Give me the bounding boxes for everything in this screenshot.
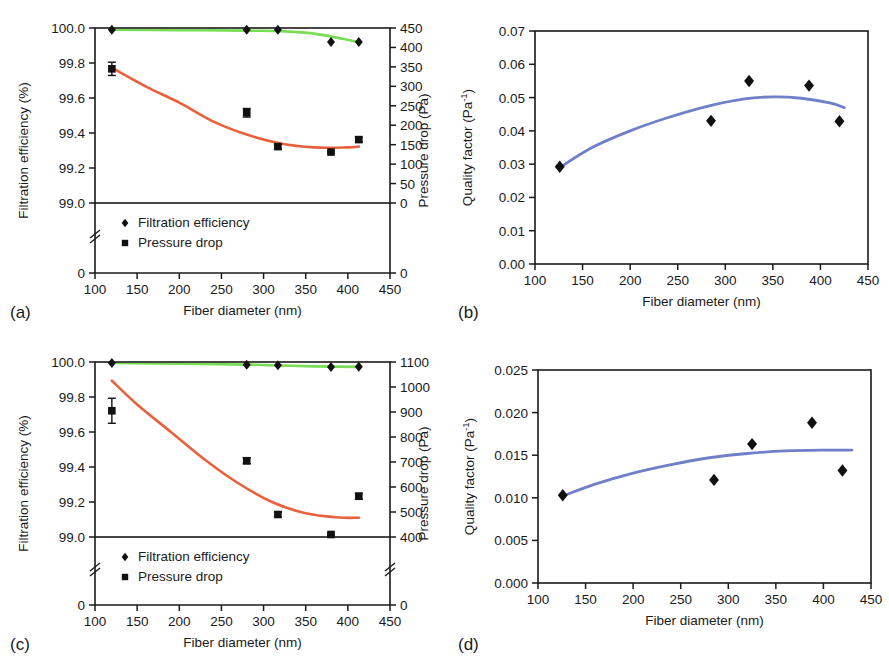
svg-text:450: 450	[379, 614, 402, 629]
svg-text:99.4: 99.4	[59, 460, 86, 475]
data-marker-square	[243, 457, 251, 465]
svg-text:100: 100	[524, 273, 547, 288]
svg-text:150: 150	[571, 273, 594, 288]
svg-text:450: 450	[400, 21, 423, 36]
y2-axis-title: Pressure drop (Pa)	[416, 93, 431, 207]
x-axis: 100150200250300350400450	[527, 583, 883, 607]
legend: Filtration efficiencyPressure drop	[122, 549, 250, 584]
svg-text:0.02: 0.02	[499, 190, 525, 205]
svg-text:150: 150	[574, 592, 597, 607]
left-y-axis: 99.099.299.499.699.8100.00	[51, 355, 100, 613]
svg-text:300: 300	[717, 592, 740, 607]
panel-label: (a)	[10, 303, 31, 322]
svg-text:350: 350	[762, 273, 785, 288]
svg-text:0.025: 0.025	[494, 363, 528, 378]
chart-c: 99.099.299.499.699.8100.0040050060070080…	[0, 332, 450, 664]
chart-d: 0.0000.0050.0100.0150.0200.0251001502002…	[450, 332, 889, 664]
svg-text:350: 350	[765, 592, 788, 607]
svg-text:450: 450	[379, 282, 402, 297]
svg-text:99.2: 99.2	[59, 495, 85, 510]
svg-text:450: 450	[860, 592, 883, 607]
svg-text:50: 50	[400, 177, 415, 192]
svg-text:99.2: 99.2	[59, 161, 85, 176]
data-marker-diamond	[804, 79, 814, 91]
svg-text:150: 150	[126, 614, 149, 629]
plot-frame	[538, 370, 871, 583]
fit-curve-quality-trend	[560, 97, 844, 168]
data-marker-diamond	[555, 161, 565, 173]
svg-text:99.0: 99.0	[59, 530, 85, 545]
data-marker-diamond	[558, 489, 568, 501]
svg-text:0.010: 0.010	[494, 491, 528, 506]
fit-curve-efficiency-trend	[112, 30, 359, 42]
svg-text:300: 300	[252, 282, 275, 297]
left-y-axis: 99.099.299.499.699.8100.00	[51, 21, 100, 281]
legend-marker-diamond	[122, 553, 129, 561]
svg-text:0: 0	[400, 598, 408, 613]
data-marker-square	[355, 492, 363, 500]
svg-text:100.0: 100.0	[51, 355, 85, 370]
svg-text:Pressure drop: Pressure drop	[138, 235, 223, 250]
svg-text:Pressure drop: Pressure drop	[138, 569, 223, 584]
svg-text:99.4: 99.4	[59, 126, 86, 141]
series-Pressure-drop	[108, 62, 363, 156]
svg-text:100: 100	[84, 614, 107, 629]
chart-b: 0.000.010.020.030.040.050.060.0710015020…	[450, 0, 889, 332]
panel-b: 0.000.010.020.030.040.050.060.0710015020…	[450, 0, 889, 332]
data-marker-diamond	[709, 474, 719, 486]
svg-text:250: 250	[669, 592, 692, 607]
x-axis: 100150200250300350400450	[84, 605, 402, 629]
svg-text:300: 300	[252, 614, 275, 629]
svg-text:900: 900	[400, 405, 423, 420]
y-axis: 0.0000.0050.0100.0150.0200.025	[494, 363, 538, 591]
data-marker-diamond	[108, 358, 116, 368]
svg-text:150: 150	[126, 282, 149, 297]
panel-label: (b)	[458, 303, 479, 322]
panel-label: (c)	[10, 635, 30, 654]
data-marker-square	[327, 148, 335, 156]
x-axis: 100150200250300350400450	[524, 264, 880, 288]
svg-text:Filtration efficiency: Filtration efficiency	[138, 549, 250, 564]
fit-curve-efficiency-trend	[112, 363, 359, 367]
svg-text:99.8: 99.8	[59, 56, 85, 71]
svg-text:200: 200	[168, 282, 191, 297]
data-marker-diamond	[747, 438, 757, 450]
svg-text:99.8: 99.8	[59, 390, 85, 405]
data-marker-diamond	[274, 25, 282, 35]
fit-curve-quality-trend	[563, 450, 852, 496]
svg-text:0.04: 0.04	[499, 124, 526, 139]
svg-text:99.6: 99.6	[59, 425, 85, 440]
svg-text:200: 200	[168, 614, 191, 629]
svg-text:0: 0	[77, 266, 85, 281]
svg-text:200: 200	[619, 273, 642, 288]
svg-text:1100: 1100	[400, 355, 429, 370]
svg-text:250: 250	[666, 273, 689, 288]
svg-text:99.6: 99.6	[59, 91, 85, 106]
svg-text:0.015: 0.015	[494, 448, 528, 463]
data-marker-diamond	[327, 37, 335, 47]
data-marker-diamond	[706, 115, 716, 127]
svg-text:0.000: 0.000	[494, 576, 528, 591]
svg-text:200: 200	[622, 592, 645, 607]
svg-text:0.00: 0.00	[499, 257, 525, 272]
legend-marker-square	[122, 240, 128, 246]
data-marker-square	[108, 65, 116, 73]
data-marker-diamond	[355, 362, 363, 372]
x-axis-title: Fiber diameter (nm)	[183, 303, 302, 318]
svg-text:100.0: 100.0	[51, 21, 85, 36]
data-marker-square	[355, 136, 363, 144]
data-marker-square	[108, 407, 116, 415]
svg-text:0.01: 0.01	[499, 224, 525, 239]
data-marker-diamond	[807, 417, 817, 429]
plot-frame	[535, 31, 868, 264]
svg-text:Filtration efficiency: Filtration efficiency	[138, 215, 250, 230]
data-marker-diamond	[243, 25, 251, 35]
y-axis-title: Quality factor (Pa-1)	[458, 89, 475, 206]
data-marker-square	[274, 511, 282, 519]
svg-text:0: 0	[400, 266, 408, 281]
svg-text:100: 100	[84, 282, 107, 297]
svg-text:0: 0	[400, 196, 408, 211]
data-marker-diamond	[744, 75, 754, 87]
svg-text:0: 0	[77, 598, 85, 613]
svg-text:0.06: 0.06	[499, 57, 525, 72]
